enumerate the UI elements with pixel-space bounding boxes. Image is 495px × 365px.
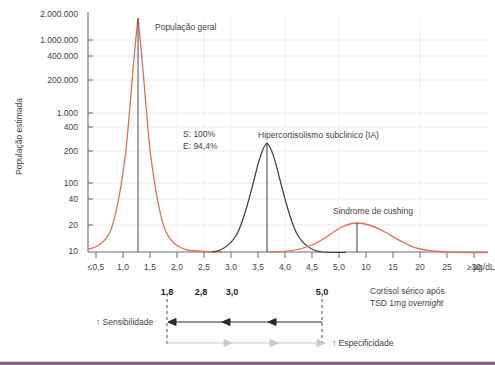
- caption-overnight-italic: overnight: [408, 298, 443, 308]
- x-axis-unit-label: µg/dL: [473, 262, 495, 272]
- y-tick-label-40: 40: [18, 194, 78, 204]
- y-tick-label-200000: 200.000: [18, 75, 78, 85]
- y-tick-label-2000000: 2.000.000: [18, 9, 78, 19]
- y-axis-ticks: [88, 40, 93, 225]
- annotation-sindrome-cushing: Sindrome de cushing: [333, 205, 413, 217]
- caption-cortisol-line2: TSD 1mg overnight: [370, 297, 443, 310]
- annotation-hipercortisolismo: Hipercortisolismo subclinico (IA): [258, 129, 379, 141]
- threshold-label-2-8: 2,8: [184, 287, 218, 297]
- chart-figure: População estimada 2.000.000 1.000.000 4…: [0, 0, 495, 365]
- y-tick-label-200: 200: [18, 146, 78, 156]
- threshold-label-3-0: 3,0: [215, 287, 249, 297]
- y-tick-label-400: 400: [18, 122, 78, 132]
- y-tick-label-1000000: 1.000.000: [18, 35, 78, 45]
- y-tick-label-20: 20: [18, 220, 78, 230]
- threshold-label-1-8: 1,8: [150, 287, 184, 297]
- annotation-sensitivity-value: S: 100%: [183, 128, 215, 140]
- threshold-label-5-0: 5,0: [305, 287, 339, 297]
- caption-cortisol-line1: Cortisol sérico após: [370, 285, 445, 298]
- label-sensibilidade: ↑ Sensibilidade: [96, 316, 153, 329]
- y-tick-label-400000: 400.000: [18, 51, 78, 61]
- annotation-populacao-geral: População geral: [155, 21, 216, 33]
- x-axis-ticks: [96, 252, 474, 258]
- y-tick-label-100: 100: [18, 178, 78, 188]
- curve-sindrome-cushing: [270, 223, 488, 253]
- sensibilidade-arrow-row: [168, 319, 322, 326]
- especificidade-arrow-row: [167, 340, 325, 347]
- label-especificidade: ↑ Especificidade: [332, 337, 393, 350]
- caption-tsd-prefix: TSD 1mg: [370, 298, 408, 308]
- annotation-specificity-value: E: 94,4%: [183, 140, 218, 152]
- y-tick-label-10: 10: [18, 246, 78, 256]
- curve-hipercortisolismo: [212, 143, 346, 253]
- y-tick-label-1000: 1.000: [18, 108, 78, 118]
